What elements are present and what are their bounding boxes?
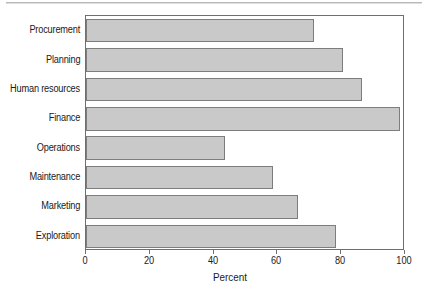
bar [86,78,362,102]
category-label: Planning [46,54,80,65]
x-tick-label: 60 [271,255,281,267]
bar-row [86,136,403,160]
category-label: Marketing [41,200,80,211]
bar-row [86,48,403,72]
page-top-rule-shadow [6,3,422,4]
x-tick-mark [340,250,341,254]
category-label: Human resources [10,83,80,94]
bar-row [86,107,403,131]
bar [86,19,314,43]
bar-row [86,78,403,102]
bar-chart-figure: ProcurementPlanningHuman resourcesFinanc… [0,0,428,295]
x-tick-mark [213,250,214,254]
x-tick-mark [85,250,86,254]
plot-area [86,16,403,249]
x-tick-label: 0 [82,255,87,267]
bar [86,225,336,249]
category-label: Procurement [29,24,80,35]
x-axis-title-text: Percent [213,271,247,283]
x-tick-label: 40 [207,255,217,267]
bar [86,195,298,219]
x-tick-mark [276,250,277,254]
category-label: Maintenance [29,171,80,182]
x-tick-label: 80 [335,255,345,267]
category-label: Operations [37,142,80,153]
x-axis-title: Percent [13,271,415,283]
bar-row [86,166,403,190]
plot-frame [85,15,404,250]
bar-row [86,225,403,249]
bar [86,166,273,190]
bar-row [86,19,403,43]
x-tick-label: 20 [144,255,154,267]
category-label: Finance [49,112,80,123]
x-tick-mark [404,250,405,254]
category-label: Exploration [36,230,80,241]
bar-row [86,195,403,219]
x-tick-mark [149,250,150,254]
x-tick-label: 100 [396,255,411,267]
bar [86,48,343,72]
bar [86,136,225,160]
bar [86,107,400,131]
